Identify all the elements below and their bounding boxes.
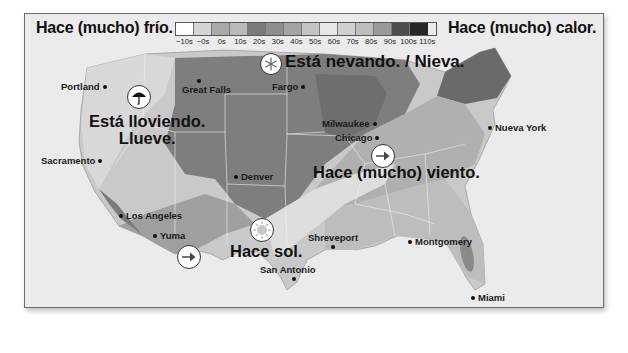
legend-label: 70s (343, 37, 362, 46)
legend-swatch (248, 23, 266, 35)
sun-icon (250, 218, 274, 242)
temperature-legend: −10s −0s 0s 10s 20s 30s 40s 50s 60s 70s … (175, 22, 437, 46)
legend-swatch (356, 23, 374, 35)
rain-caption-line2: Llueve. (89, 130, 205, 147)
snowflake-icon (260, 53, 282, 75)
city-chicago: Chicago (335, 132, 379, 143)
legend-swatch (176, 23, 194, 35)
city-dot (331, 245, 335, 249)
city-fargo: Fargo (272, 81, 305, 92)
city-san-antonio: San Antonio (260, 264, 316, 281)
legend-swatch (284, 23, 302, 35)
city-dot (471, 296, 475, 300)
legend-label: 30s (268, 37, 287, 46)
snow-caption: Está nevando. / Nieva. (285, 53, 465, 71)
city-dot (103, 85, 107, 89)
cold-title: Hace (mucho) frío. (36, 19, 173, 37)
city-dot (234, 175, 238, 179)
city-montgomery: Montgomery (408, 236, 472, 247)
legend-swatches (175, 22, 437, 36)
city-dot (197, 79, 201, 83)
hot-title: Hace (mucho) calor. (448, 19, 596, 37)
sun-caption: Hace sol. (230, 243, 302, 260)
city-dot (119, 214, 123, 218)
city-dot (375, 136, 379, 140)
city-dot (153, 234, 157, 238)
legend-label: 100s (399, 37, 418, 46)
umbrella-icon (127, 85, 151, 109)
legend-label: 80s (362, 37, 381, 46)
legend-swatch (410, 23, 428, 35)
legend-swatch (194, 23, 212, 35)
arrow-right-icon (177, 245, 201, 269)
legend-label: 0s (212, 37, 231, 46)
city-nueva-york: Nueva York (488, 122, 546, 133)
city-milwaukee: Milwaukee (322, 118, 377, 129)
city-miami: Miami (471, 292, 505, 303)
legend-label: 110s (418, 37, 437, 46)
city-portland: Portland (61, 81, 107, 92)
city-great-falls: Great Falls (182, 79, 231, 95)
legend-label: 50s (306, 37, 325, 46)
legend-labels: −10s −0s 0s 10s 20s 30s 40s 50s 60s 70s … (175, 37, 437, 46)
legend-label: 20s (250, 37, 269, 46)
wind-caption: Hace (mucho) viento. (313, 164, 480, 181)
city-dot (301, 85, 305, 89)
legend-label: −0s (194, 37, 213, 46)
city-dot (292, 277, 296, 281)
city-sacramento: Sacramento (41, 155, 102, 166)
city-dot (98, 159, 102, 163)
legend-swatch (338, 23, 356, 35)
legend-label: 90s (381, 37, 400, 46)
city-shreveport: Shreveport (308, 232, 358, 249)
city-dot (408, 240, 412, 244)
legend-swatch (374, 23, 392, 35)
legend-label: 60s (325, 37, 344, 46)
legend-swatch (212, 23, 230, 35)
rain-caption: Está lloviendo. Llueve. (89, 113, 205, 148)
city-dot (488, 126, 492, 130)
legend-swatch (230, 23, 248, 35)
legend-label: −10s (175, 37, 194, 46)
legend-swatch (266, 23, 284, 35)
city-dot (373, 122, 377, 126)
city-denver: Denver (234, 171, 273, 182)
city-yuma: Yuma (153, 230, 185, 241)
legend-swatch (392, 23, 410, 35)
weather-map-frame: Hace (mucho) frío. Hace (mucho) calor. −… (24, 13, 604, 308)
legend-label: 10s (231, 37, 250, 46)
legend-swatch (302, 23, 320, 35)
legend-label: 40s (287, 37, 306, 46)
legend-swatch (320, 23, 338, 35)
rain-caption-line1: Está lloviendo. (89, 113, 205, 130)
city-los-angeles: Los Angeles (119, 210, 182, 221)
